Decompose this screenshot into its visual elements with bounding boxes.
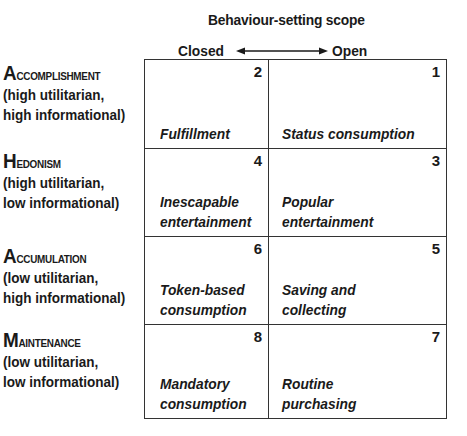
cell-label: Routine purchasing bbox=[282, 374, 356, 414]
row-desc-line1: (low utilitarian, bbox=[3, 352, 119, 372]
double-arrow-icon bbox=[236, 46, 328, 56]
grid-cell-1: 1 Status consumption bbox=[269, 60, 446, 149]
cell-label: Inescapable entertainment bbox=[160, 192, 251, 232]
scope-axis: Closed Open bbox=[178, 42, 388, 60]
row-title: Accomplishment bbox=[3, 63, 125, 85]
row-desc-line2: high informational) bbox=[3, 105, 125, 125]
cell-label: Popular entertainment bbox=[282, 192, 373, 232]
row-desc-line1: (high utilitarian, bbox=[3, 85, 125, 105]
row-label-accomplishment: Accomplishment (high utilitarian, high i… bbox=[3, 63, 125, 125]
cell-number: 8 bbox=[254, 328, 262, 345]
grid-cell-5: 5 Saving and collecting bbox=[269, 237, 446, 325]
row-title: Maintenance bbox=[3, 330, 119, 352]
cell-number: 7 bbox=[432, 328, 440, 345]
row-desc-line1: (low utilitarian, bbox=[3, 268, 125, 288]
axis-label-open: Open bbox=[332, 42, 367, 59]
cell-label: Mandatory consumption bbox=[160, 374, 247, 414]
scope-title: Behaviour-setting scope bbox=[208, 11, 365, 28]
grid-cell-7: 7 Routine purchasing bbox=[269, 325, 446, 418]
cell-number: 5 bbox=[432, 240, 440, 257]
row-desc-line2: low informational) bbox=[3, 193, 119, 213]
grid-cell-4: 4 Inescapable entertainment bbox=[145, 149, 269, 237]
row-label-maintenance: Maintenance (low utilitarian, low inform… bbox=[3, 330, 119, 392]
cell-label: Token-based consumption bbox=[160, 280, 247, 320]
grid-cell-6: 6 Token-based consumption bbox=[145, 237, 269, 325]
cell-number: 2 bbox=[254, 63, 262, 80]
row-desc-line1: (high utilitarian, bbox=[3, 173, 119, 193]
cell-number: 1 bbox=[432, 63, 440, 80]
cell-label: Status consumption bbox=[282, 124, 415, 144]
row-desc-line2: high informational) bbox=[3, 288, 125, 308]
behaviour-grid: 2 Fulfillment 1 Status consumption 4 Ine… bbox=[144, 59, 447, 419]
grid-cell-8: 8 Mandatory consumption bbox=[145, 325, 269, 418]
row-label-accumulation: Accumulation (low utilitarian, high info… bbox=[3, 246, 125, 308]
row-label-hedonism: Hedonism (high utilitarian, low informat… bbox=[3, 151, 119, 213]
cell-label: Saving and collecting bbox=[282, 280, 356, 320]
cell-label: Fulfillment bbox=[160, 124, 230, 144]
row-desc-line2: low informational) bbox=[3, 372, 119, 392]
grid-cell-2: 2 Fulfillment bbox=[145, 60, 269, 149]
cell-number: 4 bbox=[254, 152, 262, 169]
grid-cell-3: 3 Popular entertainment bbox=[269, 149, 446, 237]
row-title: Accumulation bbox=[3, 246, 125, 268]
cell-number: 3 bbox=[432, 152, 440, 169]
cell-number: 6 bbox=[254, 240, 262, 257]
axis-label-closed: Closed bbox=[178, 42, 224, 59]
row-title: Hedonism bbox=[3, 151, 119, 173]
